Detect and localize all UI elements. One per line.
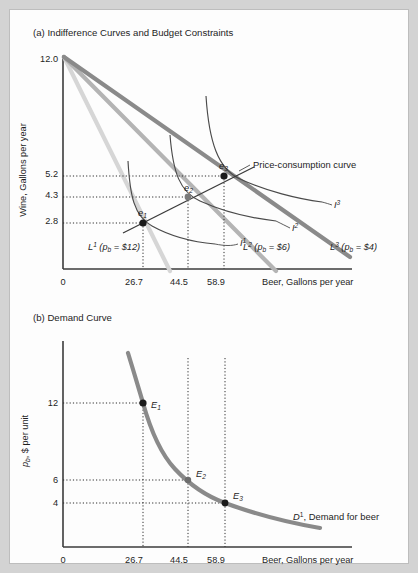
equilibrium-point-e2	[185, 194, 192, 201]
indiff-1-leader	[215, 244, 238, 246]
panel-b-y-axis-label: pb, $ per unit	[20, 414, 31, 468]
panel-a-ytick-2-8: 2.8	[45, 216, 58, 226]
equilibrium-label-e3: e3	[219, 161, 228, 172]
panel-b-xtick-44-5: 44.5	[170, 555, 188, 565]
price-consumption-annotation: Price-consumption curve	[253, 159, 356, 170]
indifference-curve-3	[206, 96, 322, 202]
panel-a-chart: (a) Indifference Curves and Budget Const…	[10, 10, 410, 300]
panel-b-xtick-26-7: 26.7	[125, 555, 143, 565]
indiff-2-leader	[276, 221, 290, 228]
demand-label-E2: E2	[196, 469, 206, 480]
equilibrium-label-e1: e1	[138, 208, 147, 219]
equilibrium-point-e1	[139, 219, 146, 226]
panel-b-x-axis-label: Beer, Gallons per year	[262, 555, 353, 565]
budget-line-3	[64, 57, 350, 257]
panel-a-ytick-5-2: 5.2	[45, 169, 58, 179]
panel-b-ytick-4: 4	[53, 498, 58, 508]
demand-curve-label: D1, Demand for beer	[293, 511, 379, 522]
demand-point-E2	[185, 477, 191, 483]
panel-a-ytick-12: 12.0	[40, 54, 58, 64]
panel-b-title: (b) Demand Curve	[33, 312, 112, 323]
panel-a-origin-label: 0	[60, 277, 65, 287]
demand-point-E3	[222, 500, 229, 507]
budget-line-1	[64, 57, 170, 271]
figure-card: (a) Indifference Curves and Budget Const…	[9, 9, 409, 564]
indifference-label-2: I2	[292, 222, 299, 233]
panel-a-xtick-58-9: 58.9	[207, 277, 225, 287]
panel-b-chart: (b) Demand Curve pb, $ per unit 12 6 4 0…	[10, 293, 410, 568]
budget-label-1: L1 (pb = $12)	[88, 241, 140, 254]
demand-point-E1	[139, 399, 146, 406]
budget-label-3: L3 (pb = $4)	[330, 241, 377, 254]
panel-b-ytick-6: 6	[53, 475, 58, 485]
panel-a-ytick-4-3: 4.3	[45, 190, 58, 200]
panel-a-title: (a) Indifference Curves and Budget Const…	[33, 27, 234, 38]
figure-root: (a) Indifference Curves and Budget Const…	[0, 0, 418, 573]
indifference-label-3: I3	[334, 199, 341, 210]
panel-a-x-axis-label: Beer, Gallons per year	[262, 277, 353, 287]
panel-b-ytick-12: 12	[48, 398, 58, 408]
panel-a-y-axis-label: Wine, Gallons per year	[18, 123, 28, 216]
panel-a-xtick-44-5: 44.5	[170, 277, 188, 287]
panel-b-origin-label: 0	[60, 555, 65, 565]
equilibrium-point-e3	[220, 172, 227, 179]
budget-label-2: L2 (pb = $6)	[243, 241, 290, 254]
panel-a-xtick-26-7: 26.7	[125, 277, 143, 287]
demand-label-E1: E1	[151, 400, 161, 411]
indiff-3-leader	[322, 202, 332, 205]
panel-b-xtick-58-9: 58.9	[207, 555, 225, 565]
demand-label-E3: E3	[233, 491, 243, 502]
